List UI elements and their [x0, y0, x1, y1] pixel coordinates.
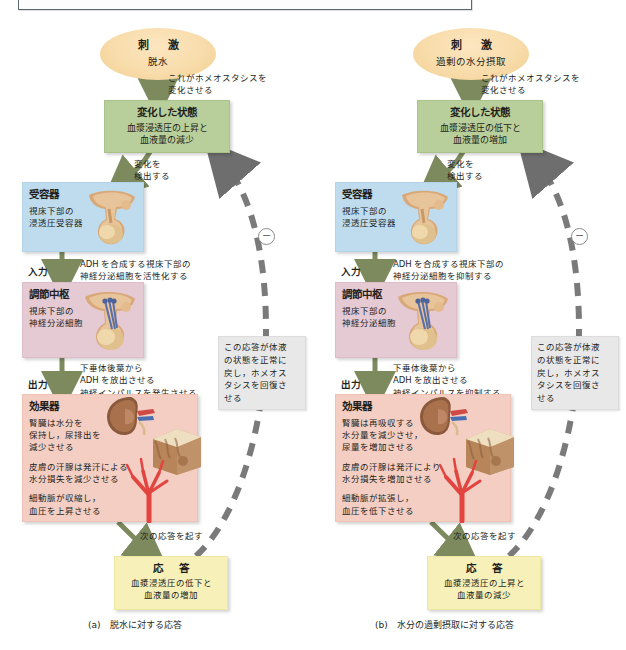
negative-feedback-icon: −: [571, 228, 588, 245]
detect-change-label: 変化を 検出する: [447, 158, 537, 183]
response-node: 応 答 血漿浸透圧の低下と 血液量の増加: [114, 556, 228, 610]
effector-block-arteriole: 細動脈が拡張し， 血圧を低下させる: [342, 492, 504, 517]
input-label: 入力: [341, 265, 361, 279]
control-center-line1: 視床下部の: [29, 305, 137, 317]
stimulus-title: 刺 激: [134, 39, 183, 54]
changed-state-line1: 血漿浸透圧の低下と: [422, 122, 538, 134]
changed-state-title: 変化した状態: [109, 106, 225, 120]
control-center-line2: 神経分泌細胞: [29, 317, 137, 329]
stimulus-arrow-label: これがホメオスタシスを 変化させる: [168, 72, 308, 97]
input-description: ADH を合成する視床下部の 神経分泌細胞を抑制する: [393, 258, 608, 283]
response-line1: 血漿浸透圧の低下と: [119, 578, 223, 590]
effector-block-kidney: 腎臓は再吸収する 水分量を減少させ， 尿量を増加させる: [342, 417, 504, 454]
receptor-line2: 浸透圧受容器: [29, 217, 137, 229]
detect-change-label: 変化を 検出する: [134, 158, 224, 183]
response-line1: 血漿浸透圧の上昇と: [432, 578, 536, 590]
output-label: 出力: [28, 378, 48, 392]
response-line2: 血液量の減少: [432, 590, 536, 602]
stimulus-title: 刺 激: [447, 39, 496, 54]
panel-water-overload: 刺 激 過剰の水分摂取 これがホメオスタシスを 変化させる 変化した状態 血漿浸…: [313, 0, 626, 650]
control-center-line2: 神経分泌細胞: [342, 317, 450, 329]
panel-dehydration: 刺 激 脱水 これがホメオスタシスを 変化させる 変化した状態 血漿浸透圧の上昇…: [0, 0, 313, 650]
negative-feedback-icon: −: [258, 228, 275, 245]
effector-block-skin: 皮膚の汗腺は発汗により 水分損失を増加させる: [342, 461, 504, 486]
panel-a-caption: (a) 脱水に対する応答: [88, 618, 182, 631]
control-center-node: 調節中枢 視床下部の 神経分泌細胞: [335, 282, 457, 358]
receptor-line2: 浸透圧受容器: [342, 217, 450, 229]
control-center-title: 調節中枢: [29, 288, 137, 302]
control-center-title: 調節中枢: [342, 288, 450, 302]
input-label: 入力: [28, 265, 48, 279]
control-center-node: 調節中枢 視床下部の 神経分泌細胞: [22, 282, 144, 358]
effector-block-kidney: 腎臓は水分を 保持し，尿排出を 減少させる: [29, 417, 191, 454]
receptor-line1: 視床下部の: [342, 205, 450, 217]
feedback-note: この応答が体液 の状態を正常に 戻し，ホメオス タシスを回復さ せる: [218, 336, 306, 410]
stimulus-arrow-label: これがホメオスタシスを 変化させる: [481, 72, 621, 97]
effector-block-arteriole: 細動脈が収縮し， 血圧を上昇させる: [29, 492, 191, 517]
response-title: 応 答: [432, 562, 536, 576]
next-response-label: 次の応答を起す: [453, 530, 516, 542]
response-title: 応 答: [119, 562, 223, 576]
effector-title: 効果器: [342, 400, 504, 414]
changed-state-node: 変化した状態 血漿浸透圧の低下と 血液量の増加: [417, 100, 543, 153]
changed-state-line2: 血液量の増加: [422, 134, 538, 146]
feedback-note: この応答が体液 の状態を正常に 戻し，ホメオス タシスを回復さ せる: [531, 336, 619, 410]
stimulus-subtitle: 脱水: [148, 56, 168, 69]
output-label: 出力: [341, 378, 361, 392]
receptor-line1: 視床下部の: [29, 205, 137, 217]
panel-b-caption: (b) 水分の過剰摂取に対する応答: [375, 618, 514, 631]
stimulus-subtitle: 過剰の水分摂取: [436, 56, 506, 69]
changed-state-node: 変化した状態 血漿浸透圧の上昇と 血液量の減少: [104, 100, 230, 153]
figure-page: 刺 激 脱水 これがホメオスタシスを 変化させる 変化した状態 血漿浸透圧の上昇…: [0, 0, 626, 650]
effector-node: 効果器 腎臓は再吸収する 水分量を減少させ， 尿量を増加させる 皮膚の汗腺は発汗…: [335, 394, 511, 522]
effector-title: 効果器: [29, 400, 191, 414]
receptor-node: 受容器 視床下部の 浸透圧受容器: [335, 182, 457, 252]
effector-block-skin: 皮膚の汗腺は発汗による 水分損失を減少させる: [29, 461, 191, 486]
control-center-line1: 視床下部の: [342, 305, 450, 317]
receptor-title: 受容器: [29, 188, 137, 202]
receptor-title: 受容器: [342, 188, 450, 202]
effector-node: 効果器 腎臓は水分を 保持し，尿排出を 減少させる 皮膚の汗腺は発汗による 水分…: [22, 394, 198, 522]
input-description: ADH を合成する視床下部の 神経分泌細胞を活性化する: [80, 258, 295, 283]
response-node: 応 答 血漿浸透圧の上昇と 血液量の減少: [427, 556, 541, 610]
next-response-label: 次の応答を起す: [140, 530, 203, 542]
response-line2: 血液量の増加: [119, 590, 223, 602]
receptor-node: 受容器 視床下部の 浸透圧受容器: [22, 182, 144, 252]
changed-state-line1: 血漿浸透圧の上昇と: [109, 122, 225, 134]
changed-state-line2: 血液量の減少: [109, 134, 225, 146]
changed-state-title: 変化した状態: [422, 106, 538, 120]
